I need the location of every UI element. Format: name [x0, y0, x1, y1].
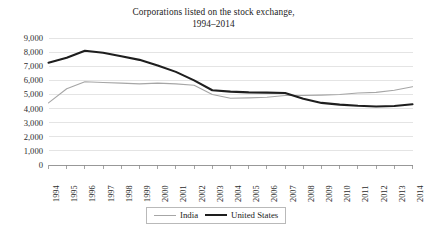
legend-label-united-states: United States	[231, 210, 278, 220]
x-axis-tick-label: 2013	[398, 168, 407, 202]
x-axis-tick-label: 2009	[325, 168, 334, 202]
x-axis-tick-label: 1995	[70, 168, 79, 202]
x-axis-tick-label: 1998	[125, 168, 134, 202]
x-axis-tick-label: 2001	[179, 168, 188, 202]
x-axis-tick-label: 1997	[107, 168, 116, 202]
chart-legend: India United States	[146, 207, 286, 224]
x-axis-tick-label: 2011	[361, 168, 370, 202]
x-axis-tick-label: 2004	[234, 168, 243, 202]
x-axis-tick-label: 2008	[307, 168, 316, 202]
x-axis-labels: 1994199519961997199819992000200120022003…	[0, 0, 427, 232]
x-axis-tick-label: 2003	[216, 168, 225, 202]
x-axis-tick-label: 2006	[270, 168, 279, 202]
chart-figure: Corporations listed on the stock exchang…	[0, 0, 427, 232]
x-axis-tick-label: 2012	[380, 168, 389, 202]
legend-item-india[interactable]: India	[154, 210, 198, 220]
legend-line-icon-india	[154, 215, 176, 216]
x-axis-tick-label: 2014	[416, 168, 425, 202]
x-axis-tick-label: 2010	[343, 168, 352, 202]
x-axis-tick-label: 2007	[289, 168, 298, 202]
x-axis-tick-label: 2000	[161, 168, 170, 202]
x-axis-tick-label: 2005	[252, 168, 261, 202]
x-axis-tick-label: 1999	[143, 168, 152, 202]
legend-line-icon-united-states	[205, 214, 227, 216]
x-axis-tick-label: 1996	[88, 168, 97, 202]
legend-item-united-states[interactable]: United States	[205, 210, 278, 220]
x-axis-tick-label: 2002	[198, 168, 207, 202]
legend-label-india: India	[180, 210, 198, 220]
x-axis-tick-label: 1994	[52, 168, 61, 202]
